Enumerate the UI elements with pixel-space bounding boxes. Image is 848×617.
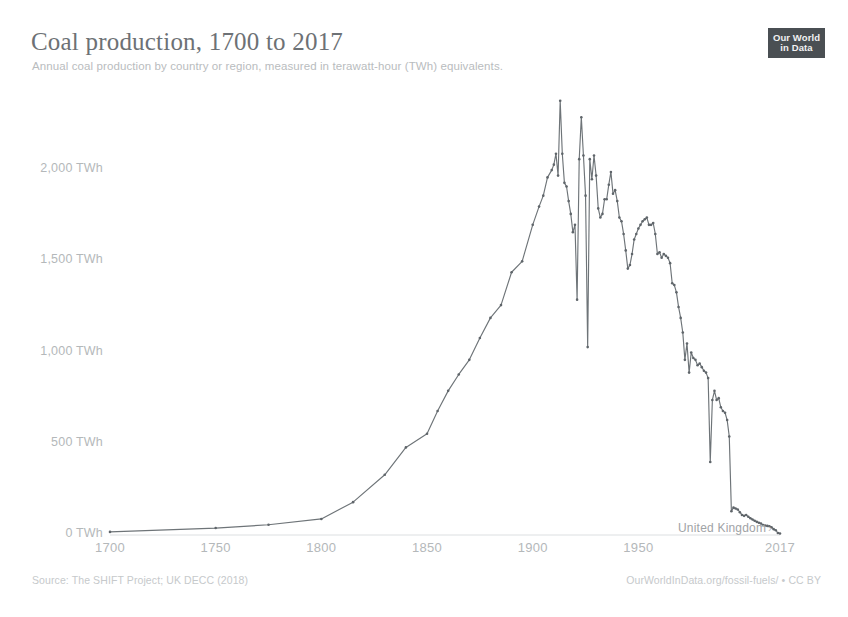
data-point-marker [779, 532, 782, 535]
data-point-marker [468, 359, 471, 362]
data-point-marker [561, 152, 564, 155]
data-point-marker [555, 152, 558, 155]
data-point-marker [405, 446, 408, 449]
footer-license-note: OurWorldInData.org/fossil-fuels/ • CC BY [626, 574, 821, 586]
data-point-marker [698, 362, 701, 365]
data-point-marker [565, 185, 568, 188]
data-point-marker [715, 399, 718, 402]
series-name: United Kingdom [678, 521, 766, 535]
data-point-marker [584, 194, 587, 197]
data-point-marker [728, 435, 731, 438]
data-point-marker [705, 371, 708, 374]
data-point-marker [722, 410, 725, 413]
data-point-marker [669, 262, 672, 265]
data-point-marker [641, 220, 644, 223]
data-point-marker [553, 163, 556, 166]
data-point-marker [616, 200, 619, 203]
data-point-marker [559, 99, 562, 102]
data-point-marker [652, 222, 655, 225]
x-axis-tick-label: 2017 [765, 540, 795, 555]
data-point-marker [629, 264, 632, 267]
data-point-marker [637, 227, 640, 230]
data-point-marker [671, 282, 674, 285]
data-point-marker [436, 410, 439, 413]
data-point-marker [745, 514, 748, 517]
plot-area [110, 88, 780, 535]
data-point-marker [578, 158, 581, 161]
data-point-marker [620, 220, 623, 223]
data-point-marker [730, 510, 733, 513]
data-point-marker [696, 364, 699, 367]
data-point-marker [214, 527, 217, 530]
data-point-marker [614, 189, 617, 192]
data-point-marker [618, 216, 621, 219]
x-axis-tick-label: 1950 [623, 540, 653, 555]
data-point-marker [489, 317, 492, 320]
data-point-marker [627, 267, 630, 270]
data-point-marker [747, 515, 750, 518]
series-end-label[interactable]: United Kingdom› [678, 521, 772, 535]
data-point-marker [610, 171, 613, 174]
footer-source: Source: The SHIFT Project; UK DECC (2018… [32, 574, 248, 586]
data-point-marker [688, 371, 691, 374]
x-axis-tick-label: 1900 [518, 540, 548, 555]
data-point-marker [597, 207, 600, 210]
data-point-marker [546, 176, 549, 179]
x-axis-tick-label: 1700 [95, 540, 125, 555]
data-point-marker [479, 337, 482, 340]
x-axis-tick-label: 1850 [412, 540, 442, 555]
data-point-marker [709, 461, 712, 464]
data-point-marker [582, 154, 585, 157]
data-point-marker [635, 233, 638, 236]
data-point-marker [320, 518, 323, 521]
data-point-marker [694, 359, 697, 362]
series-line[interactable] [110, 101, 780, 534]
data-point-marker [612, 193, 615, 196]
data-point-marker [624, 249, 627, 252]
chart-container: Coal production, 1700 to 2017 Annual coa… [0, 0, 848, 617]
data-point-marker [267, 523, 270, 526]
data-point-marker [654, 233, 657, 236]
data-point-marker [563, 182, 566, 185]
data-point-marker [711, 399, 714, 402]
data-point-marker [650, 224, 653, 227]
data-point-marker [717, 397, 720, 400]
x-axis-tick-label: 1800 [306, 540, 336, 555]
data-point-marker [588, 158, 591, 161]
data-point-marker [595, 174, 598, 177]
data-point-marker [774, 529, 777, 532]
data-point-marker [736, 508, 739, 511]
data-point-marker [383, 473, 386, 476]
data-point-marker [510, 271, 513, 274]
series-markers [109, 99, 782, 534]
data-point-marker [580, 116, 583, 119]
data-point-marker [667, 256, 670, 259]
data-point-marker [608, 183, 611, 186]
data-point-marker [447, 390, 450, 393]
data-point-marker [109, 531, 112, 534]
data-point-marker [631, 253, 634, 256]
data-point-marker [572, 231, 575, 234]
data-point-marker [586, 346, 589, 349]
data-point-marker [550, 169, 553, 172]
data-point-marker [720, 406, 723, 409]
data-point-marker [703, 370, 706, 373]
data-point-marker [701, 366, 704, 369]
line-chart-svg [110, 88, 780, 535]
data-point-marker [658, 251, 661, 254]
data-point-marker [531, 224, 534, 227]
data-point-marker [713, 390, 716, 393]
data-point-marker [643, 218, 646, 221]
data-point-marker [569, 213, 572, 216]
data-point-marker [673, 284, 676, 287]
data-point-marker [576, 298, 579, 301]
data-point-marker [739, 511, 742, 514]
data-point-marker [726, 419, 729, 422]
data-point-marker [692, 357, 695, 360]
data-point-marker [500, 304, 503, 307]
data-point-marker [352, 501, 355, 504]
data-point-marker [567, 200, 570, 203]
data-point-marker [633, 238, 636, 241]
data-point-marker [599, 216, 602, 219]
data-point-marker [601, 213, 604, 216]
